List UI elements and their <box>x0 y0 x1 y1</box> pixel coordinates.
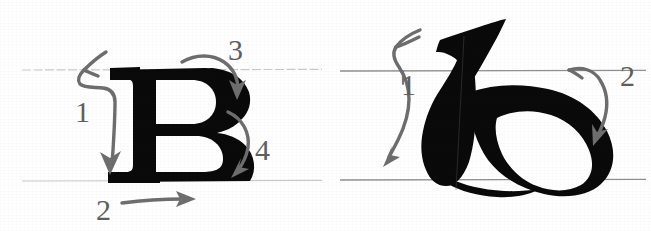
stroke-number-2-left: 2 <box>96 193 111 226</box>
stroke-number-1-right: 1 <box>401 68 416 101</box>
stroke-arrow-2-right <box>569 68 608 146</box>
stroke-number-2-right: 2 <box>620 59 635 92</box>
stroke-number-4-left: 4 <box>255 133 270 166</box>
annotation-layer: 1 2 3 4 1 <box>0 0 651 231</box>
stroke-arrow-4-left <box>228 112 249 178</box>
stroke-arrow-2-left <box>122 191 196 207</box>
stroke-number-1-left: 1 <box>75 95 90 128</box>
stroke-number-3-left: 3 <box>228 33 243 66</box>
diagram-canvas: 1 2 3 4 1 <box>0 0 651 231</box>
